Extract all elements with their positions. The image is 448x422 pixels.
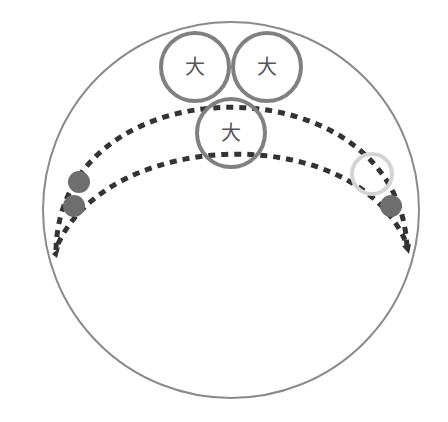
dot-right bbox=[380, 195, 402, 217]
diagram-canvas: 大 大 大 bbox=[0, 0, 448, 422]
circle-label: 大 bbox=[185, 55, 205, 79]
circle-label: 大 bbox=[257, 55, 277, 79]
outer-circle bbox=[43, 22, 419, 398]
labeled-circle-top-left: 大 bbox=[161, 33, 229, 101]
dot-left-upper bbox=[68, 171, 90, 193]
labeled-circle-top-right: 大 bbox=[233, 33, 301, 101]
outer-arc-right-arrow-icon bbox=[402, 244, 411, 254]
dot-left-lower bbox=[63, 195, 85, 217]
circle-label: 大 bbox=[221, 121, 241, 145]
